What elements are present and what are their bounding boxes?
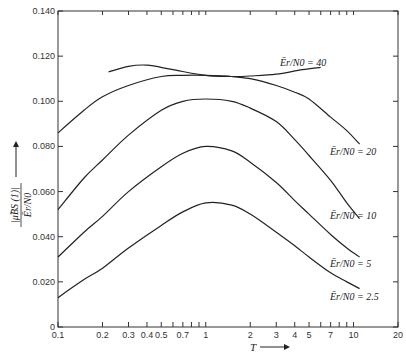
- series-label-3: Ēr/N0 = 5: [329, 258, 371, 269]
- y-tick-label: 0.080: [32, 141, 55, 151]
- x-tick-label: 2: [248, 330, 253, 340]
- series-curve-3: [58, 146, 360, 257]
- x-tick-label: 0.3: [122, 330, 135, 340]
- y-tick-label: 0.060: [32, 187, 55, 197]
- series-curve-1: [58, 75, 360, 144]
- x-tick-label: 0.1: [52, 330, 65, 340]
- y-axis-title-numerator: |μ̃BS (1)|: [9, 187, 21, 223]
- y-tick-label: 0.020: [32, 277, 55, 287]
- series-curves: [58, 65, 360, 298]
- x-axis-title: T: [250, 341, 257, 353]
- y-tick-label: 0.120: [32, 51, 55, 61]
- x-tick-label: 4: [292, 330, 297, 340]
- chart: 00.0200.0400.0600.0800.1000.1200.140 0.1…: [0, 0, 406, 359]
- x-tick-label: 20: [393, 330, 403, 340]
- x-tick-label: 0.5: [155, 330, 168, 340]
- series-label-1: Ēr/N0 = 20: [329, 146, 376, 157]
- x-tick-label: 1: [203, 330, 208, 340]
- x-tick-label: 0.7: [177, 330, 190, 340]
- x-tick-label: 0.4: [141, 330, 154, 340]
- x-tick-label: 7: [328, 330, 333, 340]
- y-tick-label: 0.040: [32, 232, 55, 242]
- x-tick-label: 5: [307, 330, 312, 340]
- x-tick-label: 0.2: [96, 330, 109, 340]
- y-tick-label: 0.100: [32, 96, 55, 106]
- y-axis-arrowhead-icon: [13, 141, 19, 147]
- series-curve-2: [58, 99, 360, 219]
- series-labels: Ēr/N0 = 40Ēr/N0 = 20Ēr/N0 = 10Ēr/N0 = 5Ē…: [279, 57, 379, 302]
- series-curve-4: [58, 202, 360, 297]
- y-tick-label: 0.140: [32, 6, 55, 16]
- y-axis: 00.0200.0400.0600.0800.1000.1200.140: [32, 6, 398, 332]
- series-label-0: Ēr/N0 = 40: [279, 57, 326, 68]
- x-axis-arrowhead-icon: [284, 344, 290, 350]
- series-label-2: Ēr/N0 = 10: [329, 210, 376, 221]
- y-axis-title-denominator: Ēr/N0: [22, 193, 33, 218]
- plot-frame: [58, 11, 398, 327]
- y-axis-title: |μ̃BS (1)| Ēr/N0: [9, 141, 33, 227]
- series-label-4: Ēr/N0 = 2.5: [329, 291, 379, 302]
- x-tick-label: 3: [274, 330, 279, 340]
- x-tick-label: 10: [349, 330, 359, 340]
